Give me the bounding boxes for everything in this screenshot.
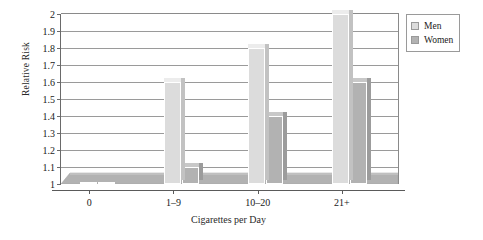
y-tick-mark [57,14,61,15]
y-tick-label: 1.9 [43,26,56,37]
bar-front-face [164,82,181,184]
y-tick-label: 1.6 [43,77,56,88]
legend-label: Women [424,35,453,45]
x-tick-label-0: 0 [87,197,92,208]
y-tick-label: 1.2 [43,145,56,156]
bar-side-face [265,44,269,180]
x-tick-label-10-20: 10–20 [245,197,270,208]
legend-swatch-icon [411,22,419,30]
bar-side-face [283,112,287,180]
x-tick-label-21-: 21+ [334,197,350,208]
y-tick-mark [57,31,61,32]
bar-side-face [181,78,185,180]
y-tick-label: 1.8 [43,43,56,54]
x-tick-mark [89,190,90,194]
y-tick-label: 1 [50,179,55,190]
plot-area: 11.11.21.31.41.51.61.71.81.92 [60,14,398,184]
y-tick-label: 2 [50,9,55,20]
y-tick-label: 1.7 [43,60,56,71]
y-tick-mark [57,48,61,49]
legend-item-men[interactable]: Men [411,19,453,33]
x-tick-mark [342,190,343,194]
y-tick-label: 1.4 [43,111,56,122]
x-axis-line [52,190,405,191]
y-axis-title: Relative Risk [21,0,31,139]
bar-front-face [98,182,115,184]
x-tick-mark [173,190,174,194]
plot-right-border [398,13,399,184]
bar-side-face [349,10,353,180]
x-tick-label-1-9: 1–9 [166,197,181,208]
y-tick-mark [57,167,61,168]
bar-front-face [80,182,97,184]
bar-men-1-9 [164,82,181,184]
y-tick-mark [57,184,61,185]
y-tick-label: 1.5 [43,94,56,105]
y-tick-label: 1.1 [43,162,56,173]
legend-item-women[interactable]: Women [411,33,453,47]
bar-men-21- [332,14,349,184]
chart-legend: MenWomen [406,14,460,52]
bar-side-face [199,163,203,180]
y-tick-mark [57,133,61,134]
y-tick-label: 1.3 [43,128,56,139]
y-tick-mark [57,65,61,66]
legend-label: Men [424,21,441,31]
relative-risk-bar-chart: Relative Risk 11.11.21.31.41.51.61.71.81… [0,0,483,240]
y-tick-mark [57,116,61,117]
bar-front-face [332,14,349,184]
bar-side-face [367,78,371,180]
bar-front-face [248,48,265,184]
y-tick-mark [57,82,61,83]
legend-swatch-icon [411,36,419,44]
x-axis-title: Cigarettes per Day [60,214,397,225]
y-tick-mark [57,99,61,100]
x-tick-mark [258,190,259,194]
bar-men-10-20 [248,48,265,184]
y-tick-mark [57,150,61,151]
